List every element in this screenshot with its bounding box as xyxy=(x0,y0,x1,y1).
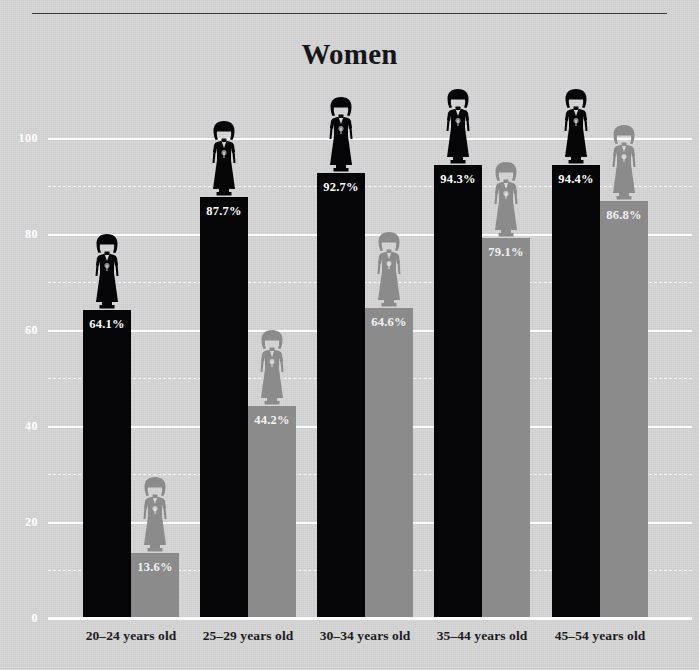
axis-baseline xyxy=(48,617,692,620)
bar-value-label: 94.4% xyxy=(552,172,600,187)
y-axis-tick-label: 20 xyxy=(2,515,38,530)
bar-value-label: 86.8% xyxy=(600,208,648,223)
bar-value-label: 13.6% xyxy=(131,560,179,575)
bar-dark-4[interactable]: 94.4% xyxy=(552,165,600,618)
woman-figure-icon xyxy=(602,123,646,201)
bar-value-label: 64.1% xyxy=(83,317,131,332)
bar-dark-0[interactable]: 64.1% xyxy=(83,310,131,618)
y-axis-tick-label: 100 xyxy=(2,131,38,146)
bar-dark-3[interactable]: 94.3% xyxy=(434,165,482,618)
bar-value-label: 92.7% xyxy=(317,180,365,195)
bar-value-label: 44.2% xyxy=(248,413,296,428)
bar-value-label: 87.7% xyxy=(200,204,248,219)
plot-area: 020406080100 64.1%87.7%92.7%94.3%94.4%13… xyxy=(0,0,699,670)
bar-light-1[interactable]: 44.2% xyxy=(248,406,296,618)
bar-dark-2[interactable]: 92.7% xyxy=(317,173,365,618)
woman-figure-icon xyxy=(367,230,411,308)
y-axis-tick-label: 60 xyxy=(2,323,38,338)
bar-value-label: 79.1% xyxy=(482,245,530,260)
chart-page: Women 020406080100 64.1%87.7%92.7%94.3%9… xyxy=(0,0,699,670)
y-axis-tick-label: 0 xyxy=(2,611,38,626)
bar-light-2[interactable]: 64.6% xyxy=(365,308,413,618)
bar-light-3[interactable]: 79.1% xyxy=(482,238,530,618)
woman-figure-icon xyxy=(202,119,246,197)
y-axis-tick-label: 80 xyxy=(2,227,38,242)
y-axis-tick-label: 40 xyxy=(2,419,38,434)
woman-figure-icon xyxy=(484,160,528,238)
x-axis-label-4: 45–54 years old xyxy=(525,628,675,644)
bar-light-0[interactable]: 13.6% xyxy=(131,553,179,618)
bar-dark-1[interactable]: 87.7% xyxy=(200,197,248,618)
woman-figure-icon xyxy=(319,95,363,173)
woman-figure-icon xyxy=(133,475,177,553)
bar-light-4[interactable]: 86.8% xyxy=(600,201,648,618)
woman-figure-icon xyxy=(250,328,294,406)
bar-value-label: 94.3% xyxy=(434,172,482,187)
woman-figure-icon xyxy=(436,87,480,165)
woman-figure-icon xyxy=(554,87,598,165)
woman-figure-icon xyxy=(85,232,129,310)
bar-value-label: 64.6% xyxy=(365,315,413,330)
